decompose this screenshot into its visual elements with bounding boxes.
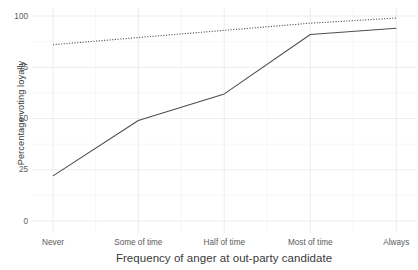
x-axis-title: Frequency of anger at out-party candidat…	[30, 252, 418, 264]
x-tick-label: Never	[42, 238, 64, 247]
plot-area	[32, 8, 416, 233]
x-tick-label: Half of time	[204, 238, 245, 247]
chart-container: 0255075100 NeverSome of timeHalf of time…	[0, 0, 418, 270]
x-tick-label: Always	[383, 238, 409, 247]
y-axis-title: Percentage voting loyally	[14, 0, 28, 228]
plot-panel	[32, 8, 416, 233]
x-tick-label: Some of time	[114, 238, 162, 247]
x-tick-label: Most of time	[288, 238, 333, 247]
